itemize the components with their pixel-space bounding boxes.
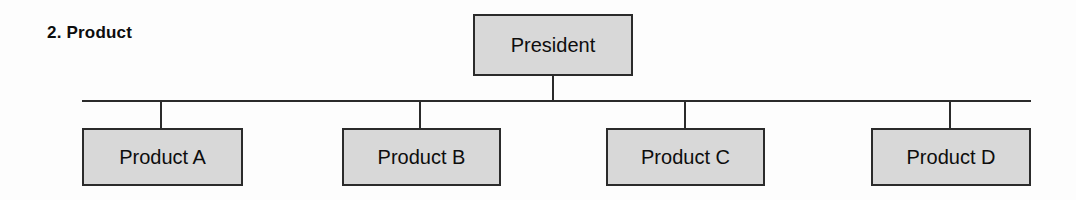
connector-horizontal-bus: [82, 100, 1031, 102]
org-node-product-d-label: Product D: [907, 146, 996, 169]
org-node-product-b[interactable]: Product B: [342, 128, 501, 186]
org-node-product-a[interactable]: Product A: [82, 128, 243, 186]
connector-president-stem: [552, 76, 554, 102]
org-chart-canvas: 2. Product President Product A Product B…: [0, 0, 1076, 200]
org-node-president[interactable]: President: [473, 14, 633, 76]
connector-drop-product-d: [949, 100, 951, 128]
connector-drop-product-c: [684, 100, 686, 128]
org-node-product-c-label: Product C: [641, 146, 730, 169]
org-node-product-d[interactable]: Product D: [871, 128, 1031, 186]
org-node-product-c[interactable]: Product C: [606, 128, 765, 186]
section-label: 2. Product: [47, 23, 132, 43]
connector-drop-product-a: [160, 100, 162, 128]
connector-drop-product-b: [419, 100, 421, 128]
org-node-product-a-label: Product A: [119, 146, 206, 169]
org-node-product-b-label: Product B: [378, 146, 466, 169]
org-node-president-label: President: [511, 34, 596, 57]
